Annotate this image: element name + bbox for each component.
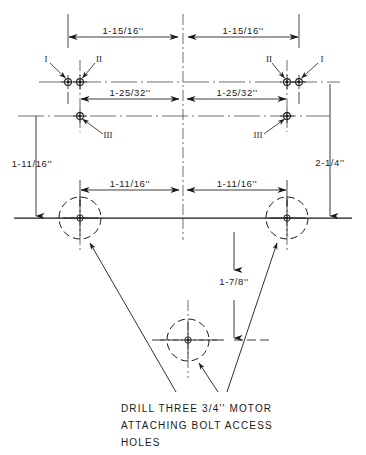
access-hole-right xyxy=(266,197,308,239)
access-hole-left xyxy=(59,197,101,239)
drawing-svg: 1-15/16'' 1-15/16'' I II xyxy=(0,0,366,455)
note-text-block: DRILL THREE 3/4'' MOTOR ATTACHING BOLT A… xyxy=(121,403,273,448)
dimension-label-mid-left: 1-25/32'' xyxy=(109,87,150,98)
leader-line-right-one xyxy=(302,63,319,78)
dimension-label-top-right: 1-15/16'' xyxy=(222,25,263,36)
dimension-label-vertical-right: 2-1/4'' xyxy=(315,157,344,168)
note-line-two: ATTACHING BOLT ACCESS xyxy=(121,420,273,431)
leader-line-left-three xyxy=(83,119,104,134)
note-leader-to-left-hole xyxy=(90,243,176,392)
hole-group-row-two: III III xyxy=(73,109,294,140)
dimension-row-mid: 1-25/32'' 1-25/32'' xyxy=(68,87,299,104)
hole-label-left-three: III xyxy=(104,130,113,140)
hole-group-left-upper: I II xyxy=(45,54,103,89)
hole-group-right-upper: II I xyxy=(266,54,324,89)
dimension-row-top: 1-15/16'' 1-15/16'' xyxy=(69,25,298,37)
note-leader-to-right-hole xyxy=(227,243,277,392)
dimension-label-vertical-center: 1-7/8'' xyxy=(219,276,248,287)
dimension-vertical-left: 1-11/16'' xyxy=(12,116,53,216)
technical-drawing-canvas: 1-15/16'' 1-15/16'' I II xyxy=(0,0,366,455)
note-line-one: DRILL THREE 3/4'' MOTOR xyxy=(121,403,272,414)
hole-label-left-two: II xyxy=(96,54,102,64)
dimension-label-lower-left: 1-11/16'' xyxy=(110,178,151,189)
note-leader-to-bottom-hole xyxy=(199,363,218,392)
hole-label-right-three: III xyxy=(254,130,263,140)
hole-label-left-one: I xyxy=(45,54,48,64)
main-line-center-marks xyxy=(56,218,311,340)
hole-label-right-one: I xyxy=(321,54,324,64)
leader-line-left-one xyxy=(50,63,66,78)
dimension-row-lower: 1-11/16'' 1-11/16'' xyxy=(80,178,287,206)
dimension-vertical-right: 2-1/4'' xyxy=(315,84,344,216)
dimension-label-vertical-left: 1-11/16'' xyxy=(12,158,53,169)
access-hole-bottom xyxy=(152,319,224,361)
note-line-three: HOLES xyxy=(121,437,161,448)
leader-line-right-three xyxy=(264,119,285,134)
center-lines-vertical xyxy=(80,14,287,378)
leader-line-left-two xyxy=(83,63,96,78)
dimension-label-top-left: 1-15/16'' xyxy=(102,25,143,36)
dimension-label-mid-right: 1-25/32'' xyxy=(216,87,257,98)
hole-label-right-two: II xyxy=(266,54,272,64)
leader-line-right-two xyxy=(272,63,285,78)
dimension-label-lower-right: 1-11/16'' xyxy=(217,178,258,189)
note-leader-lines xyxy=(90,243,277,392)
